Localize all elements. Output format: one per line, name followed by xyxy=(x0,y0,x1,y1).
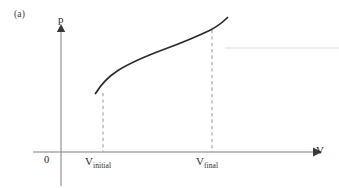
x-tick-label-final: Vfinal xyxy=(196,155,218,167)
pv-curve xyxy=(96,18,228,94)
x-tick-final-subscript: final xyxy=(204,161,218,170)
pv-diagram-svg xyxy=(0,0,339,188)
x-tick-initial-subscript: initial xyxy=(93,161,111,170)
x-tick-final-base: V xyxy=(196,155,204,167)
x-axis-label: V xyxy=(316,144,324,156)
x-tick-initial-base: V xyxy=(85,155,93,167)
y-axis-label: p xyxy=(58,13,64,25)
x-tick-label-initial: Vinitial xyxy=(85,155,111,167)
figure-container: (a) p V 0 Vinitial Vfinal xyxy=(0,0,339,188)
origin-label: 0 xyxy=(44,154,49,165)
y-axis-arrowhead xyxy=(57,24,65,32)
